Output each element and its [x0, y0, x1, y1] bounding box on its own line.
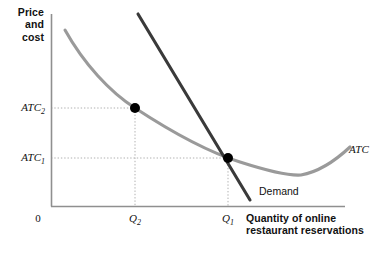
atc-curve — [65, 30, 350, 175]
demand-line — [138, 14, 250, 200]
x-tick-q1-base: Q — [222, 212, 230, 224]
x-tick-q1-subscript: 1 — [230, 218, 234, 227]
x-tick-q2: Q2 — [120, 212, 150, 228]
cost-curve-figure: Priceandcost Quantity of onlinerestauran… — [0, 0, 371, 260]
atc-curve-label: ATC — [349, 143, 369, 156]
guide-lines — [51, 108, 228, 206]
demand-line-label: Demand — [259, 185, 299, 197]
x-tick-q1: Q1 — [213, 212, 243, 228]
y-tick-atc1-subscript: 1 — [41, 157, 45, 166]
x-axis-title-text: Quantity of onlinerestaurant reservation… — [246, 212, 364, 236]
marker-q2-atc2 — [130, 103, 140, 113]
y-axis-title-text: Priceandcost — [18, 6, 44, 43]
y-tick-atc2-base: ATC — [21, 101, 41, 113]
y-axis-title: Priceandcost — [0, 6, 44, 43]
x-axis-title: Quantity of onlinerestaurant reservation… — [246, 212, 370, 237]
x-tick-q2-base: Q — [129, 212, 137, 224]
origin-label: 0 — [30, 212, 46, 225]
axes — [51, 14, 345, 207]
y-tick-atc2-subscript: 2 — [41, 107, 45, 116]
x-tick-q2-subscript: 2 — [137, 218, 141, 227]
marker-q1-atc1 — [223, 153, 233, 163]
y-tick-atc1: ATC1 — [3, 151, 45, 167]
y-tick-atc2: ATC2 — [3, 101, 45, 117]
y-tick-atc1-base: ATC — [21, 151, 41, 163]
